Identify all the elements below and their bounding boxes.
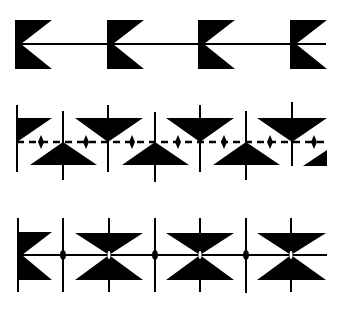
diamond-icon bbox=[83, 135, 89, 149]
diamond-icon bbox=[311, 135, 317, 149]
post-with-diamond bbox=[60, 218, 66, 292]
diamond-icon bbox=[129, 135, 135, 149]
row-3-bowties bbox=[17, 218, 327, 293]
diamond-icon bbox=[267, 135, 273, 149]
diamond-icon bbox=[175, 135, 181, 149]
diamond-icon bbox=[221, 135, 227, 149]
half-triangle-icon bbox=[17, 118, 52, 142]
row-2-alternating-triangles bbox=[17, 102, 327, 182]
row-1-pennants bbox=[15, 20, 327, 69]
post-with-diamond bbox=[243, 218, 249, 293]
pattern-figure bbox=[0, 0, 346, 311]
half-triangle-icon bbox=[303, 150, 327, 166]
down-triangle-icon bbox=[257, 102, 327, 166]
diamond-icon bbox=[38, 135, 44, 149]
post-with-diamond bbox=[152, 218, 158, 292]
